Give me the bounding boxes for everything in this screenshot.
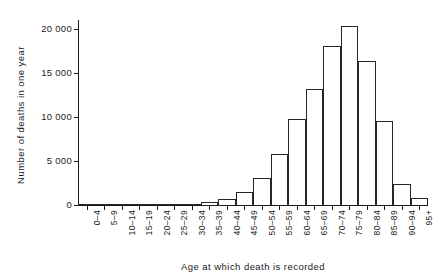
x-tick-label: 30–34 <box>197 210 208 256</box>
x-tick-mark <box>122 206 123 210</box>
x-tick-mark <box>349 206 350 210</box>
histogram-chart: Number of deaths in one year 05 00010 00… <box>0 0 444 279</box>
x-tick-mark <box>209 206 210 210</box>
y-tick-label: 5 000 <box>22 156 72 166</box>
x-tick-label: 5–9 <box>109 210 120 256</box>
x-tick-label: 55–59 <box>284 210 295 256</box>
x-tick-label: 15–19 <box>144 210 155 256</box>
y-tick-mark <box>74 117 79 118</box>
y-tick-label: 10 000 <box>22 112 72 122</box>
bar <box>236 192 254 205</box>
x-tick-label: 60–64 <box>302 210 313 256</box>
x-tick-label: 85–89 <box>389 210 400 256</box>
x-tick-mark <box>402 206 403 210</box>
x-tick-mark <box>174 206 175 210</box>
x-tick-label: 50–54 <box>267 210 278 256</box>
bar <box>253 178 271 205</box>
bar <box>201 202 219 205</box>
x-tick-mark <box>314 206 315 210</box>
bar <box>183 204 201 205</box>
y-tick-mark <box>74 73 79 74</box>
bars-layer <box>78 22 428 205</box>
x-tick-mark <box>157 206 158 210</box>
x-tick-mark <box>332 206 333 210</box>
x-tick-mark <box>192 206 193 210</box>
x-tick-mark <box>104 206 105 210</box>
x-tick-label: 95+ <box>424 210 435 256</box>
x-tick-label: 80–84 <box>372 210 383 256</box>
x-tick-mark <box>139 206 140 210</box>
x-tick-mark <box>244 206 245 210</box>
y-tick-mark <box>74 205 79 206</box>
x-tick-label: 65–69 <box>319 210 330 256</box>
x-tick-label: 70–74 <box>337 210 348 256</box>
x-tick-mark <box>419 206 420 210</box>
x-tick-mark <box>262 206 263 210</box>
x-tick-mark <box>279 206 280 210</box>
bar <box>393 184 411 205</box>
bar <box>166 204 184 205</box>
bar <box>148 204 166 205</box>
bar <box>341 26 359 205</box>
x-tick-label: 35–39 <box>214 210 225 256</box>
bar <box>113 204 131 205</box>
y-tick-label: 15 000 <box>22 68 72 78</box>
x-tick-mark <box>367 206 368 210</box>
bar <box>411 198 429 205</box>
x-tick-label: 25–29 <box>179 210 190 256</box>
x-tick-mark <box>384 206 385 210</box>
bar <box>96 204 114 205</box>
y-tick-label: 0 <box>22 200 72 210</box>
bar <box>78 204 96 205</box>
bar <box>218 199 236 205</box>
x-axis-tick-labels: 0–45–910–1415–1920–2425–2930–3435–3940–4… <box>78 210 428 256</box>
y-axis-tick-labels: 05 00010 00015 00020 000 <box>22 0 72 279</box>
bar <box>358 61 376 205</box>
bar <box>306 89 324 205</box>
x-tick-mark <box>227 206 228 210</box>
bar <box>288 119 306 205</box>
x-axis-title: Age at which death is recorded <box>78 261 428 272</box>
bar <box>131 204 149 205</box>
y-tick-mark <box>74 161 79 162</box>
bar <box>271 154 289 205</box>
x-tick-label: 45–49 <box>249 210 260 256</box>
bar <box>376 121 394 205</box>
x-tick-label: 40–44 <box>232 210 243 256</box>
x-tick-label: 90–94 <box>407 210 418 256</box>
y-tick-mark <box>74 29 79 30</box>
x-tick-label: 10–14 <box>127 210 138 256</box>
y-tick-label: 20 000 <box>22 24 72 34</box>
x-tick-label: 75–79 <box>354 210 365 256</box>
x-tick-mark <box>297 206 298 210</box>
bar <box>323 46 341 205</box>
x-tick-mark <box>87 206 88 210</box>
x-tick-label: 20–24 <box>162 210 173 256</box>
x-tick-label: 0–4 <box>92 210 103 256</box>
